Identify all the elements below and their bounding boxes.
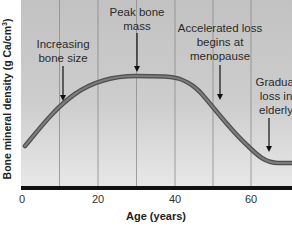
annotation-increasing-line1: Increasing [36,38,89,50]
annotation-elderly-line2: loss in [260,90,292,102]
y-axis-title: Bone mineral density (g Ca/cm3) [1,19,13,180]
x-tick-60: 60 [245,193,257,205]
annotation-menopause-line1: Accelerated loss [178,22,263,34]
x-tick-40: 40 [169,193,181,205]
x-tick-20: 20 [92,193,104,205]
y-axis-title-main: Bone mineral density (g Ca/cm [1,26,13,179]
annotation-menopause-line2: begins at [197,36,244,48]
annotation-menopause-line3: menopause [190,50,250,62]
annotation-elderly-line3: elderly [259,104,292,116]
annotation-increasing-line2: bone size [38,52,87,64]
annotation-peak-line2: mass [123,20,151,32]
bone-density-chart: Increasing bone size Peak bone mass Acce… [0,0,292,228]
annotation-elderly-line1: Gradual [256,76,292,88]
annotation-peak-line1: Peak bone [110,6,165,18]
x-axis-title: Age (years) [126,210,186,222]
x-axis-line [21,186,292,190]
y-axis-title-close: ) [1,19,13,23]
x-tick-0: 0 [19,193,25,205]
